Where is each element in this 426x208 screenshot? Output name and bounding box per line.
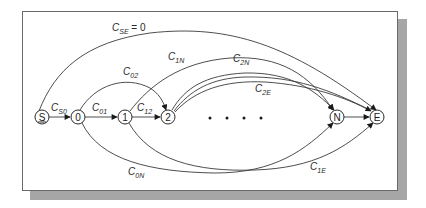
label-C1E: C1E [310,161,326,174]
edge-1-E [129,123,373,170]
node-1: 1 [118,110,132,124]
svg-text:2: 2 [165,112,171,123]
label-C02: C02 [123,66,138,79]
label-C01: C01 [92,102,107,115]
node-0: 0 [71,110,85,124]
node-N: N [330,110,344,124]
svg-text:1: 1 [122,112,128,123]
edge-1-N [130,58,333,111]
svg-text:S: S [39,112,46,123]
graph-canvas: S 0 1 2 N E CS0 C01 C12 C02 CSE = 0 C1N … [0,0,426,208]
node-S: S [35,110,49,124]
edge-2-E-upper [174,77,370,111]
node-E: E [370,110,384,124]
svg-text:N: N [333,112,340,123]
label-CSE: CSE = 0 [112,22,146,35]
label-C1N: C1N [168,51,185,64]
label-CS0: CS0 [51,102,67,115]
svg-text:E: E [374,112,381,123]
edge-2-N [172,73,334,110]
ellipsis-dots [209,117,263,120]
label-C0N: C0N [128,166,145,179]
label-C2N: C2N [233,53,250,66]
label-C2E: C2E [255,83,271,96]
node-2: 2 [161,110,175,124]
svg-text:0: 0 [75,112,81,123]
edges [39,31,376,173]
label-C12: C12 [137,102,152,115]
